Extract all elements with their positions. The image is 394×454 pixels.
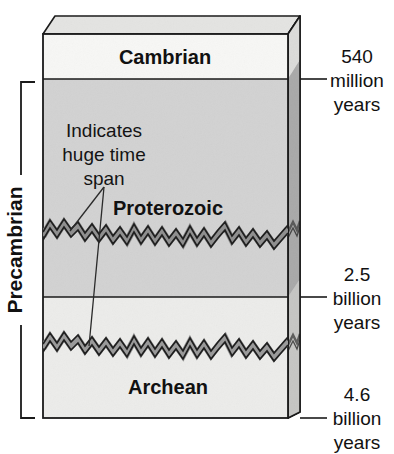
diagram-canvas: Indicates huge time span Cambrian Proter… [0, 0, 394, 454]
age-540my-line-3: years [334, 94, 380, 115]
age-46by-line-2: billion [333, 408, 382, 429]
age-540my-line-1: 540 [341, 46, 373, 67]
precambrian-bracket-label: Precambrian [3, 186, 26, 313]
age-marker-540my: 540 million years [330, 46, 384, 115]
era-label-cambrian: Cambrian [119, 46, 211, 68]
age-marker-25by: 2.5 billion years [333, 264, 382, 333]
callout-line-3: span [83, 168, 124, 189]
block-top-face [43, 16, 300, 34]
age-marker-46by: 4.6 billion years [333, 384, 382, 453]
geologic-time-scale-diagram: Indicates huge time span Cambrian Proter… [0, 0, 394, 454]
era-label-proterozoic: Proterozoic [113, 197, 223, 219]
block-side-face [288, 16, 300, 418]
age-46by-line-3: years [334, 432, 380, 453]
era-label-archean: Archean [128, 376, 208, 398]
age-marker-ticks [300, 79, 327, 418]
age-25by-line-3: years [334, 312, 380, 333]
age-540my-line-2: million [330, 70, 384, 91]
callout-line-2: huge time [62, 144, 145, 165]
age-46by-line-1: 4.6 [344, 384, 370, 405]
callout-line-1: Indicates [66, 120, 142, 141]
age-25by-line-2: billion [333, 288, 382, 309]
age-25by-line-1: 2.5 [344, 264, 370, 285]
